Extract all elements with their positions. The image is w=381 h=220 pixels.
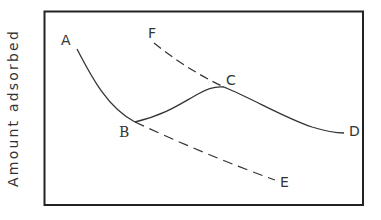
diagram-canvas: A B C D E F xyxy=(0,0,381,220)
label-point-f: F xyxy=(148,25,156,41)
plot-frame xyxy=(45,12,364,206)
label-point-b: B xyxy=(119,124,129,140)
curve-b-c xyxy=(135,87,224,122)
label-point-d: D xyxy=(349,123,360,139)
label-point-e: E xyxy=(280,174,289,190)
label-point-a: A xyxy=(61,32,71,48)
curve-f-c-dashed xyxy=(154,43,226,88)
adsorption-diagram: Amount adsorbed A B C D E F xyxy=(0,0,381,220)
curve-b-e-dashed xyxy=(135,122,275,180)
curve-c-d xyxy=(224,87,344,133)
curve-a-b xyxy=(77,49,135,122)
y-axis-label: Amount adsorbed xyxy=(5,29,21,187)
label-point-c: C xyxy=(226,72,236,88)
